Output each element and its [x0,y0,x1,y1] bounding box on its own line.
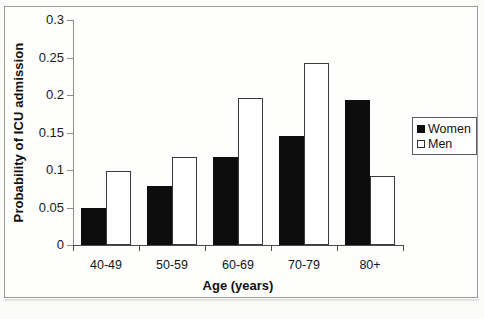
legend: Women Men [412,117,477,155]
x-category-label-1: 50-59 [139,258,205,272]
x-tick-4 [337,245,338,251]
page-shadow [5,299,479,302]
x-tick-2 [205,245,206,251]
bar-men-4 [370,176,395,245]
legend-item-men: Men [417,136,471,151]
x-tick-5 [403,245,404,251]
legend-label: Men [428,137,452,151]
legend-swatch-hollow-square-icon [417,140,425,148]
y-tick-label: 0.2 [46,86,64,103]
bar-men-1 [172,157,197,245]
bar-women-3 [279,136,304,246]
bar-group-2 [205,20,271,245]
bar-group-0 [73,20,139,245]
y-tick-label: 0.05 [39,199,64,216]
y-tick-label: 0.3 [46,11,64,28]
x-category-label-2: 60-69 [205,258,271,272]
y-tick-label: 0.15 [39,124,64,141]
bar-men-2 [238,98,263,245]
bar-men-0 [106,171,131,245]
bar-women-0 [81,208,106,245]
x-category-label-0: 40-49 [73,258,139,272]
x-category-label-4: 80+ [337,258,403,272]
x-tick-1 [139,245,140,251]
x-category-label-3: 70-79 [271,258,337,272]
x-tick-0 [73,245,74,251]
figure-container: Probability of ICU admission 0 0.05 0.1 … [0,0,484,319]
y-tick-label: 0.25 [39,49,64,66]
legend-item-women: Women [417,121,471,136]
x-tick-3 [271,245,272,251]
x-axis-title: Age (years) [73,278,403,293]
bar-group-1 [139,20,205,245]
plot-area: 0 0.05 0.1 0.15 0.2 0.25 0.3 [73,20,403,245]
legend-swatch-filled-square-icon [417,125,425,133]
y-tick-label: 0 [57,236,64,253]
bar-men-3 [304,63,329,245]
bar-women-4 [345,100,370,245]
bar-group-3 [271,20,337,245]
legend-label: Women [428,122,471,136]
bar-women-1 [147,186,172,245]
y-axis-title: Probability of ICU admission [10,20,28,245]
bar-women-2 [213,157,238,245]
x-axis-line [73,245,403,246]
bar-group-4 [337,20,403,245]
y-tick-label: 0.1 [46,161,64,178]
